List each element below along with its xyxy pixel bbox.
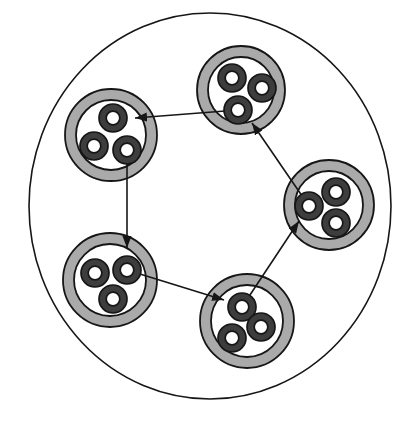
- cell-interior: [329, 216, 343, 230]
- cell-interior: [231, 103, 245, 117]
- cell-interior: [120, 263, 134, 277]
- diagram-stage: [0, 0, 410, 421]
- cluster-top-left: [65, 89, 157, 181]
- diagram-canvas: [0, 0, 410, 421]
- cell-interior: [106, 292, 120, 306]
- cluster-bottom: [200, 274, 294, 368]
- cell-interior: [225, 71, 239, 85]
- cell-interior: [254, 320, 268, 334]
- cell-interior: [302, 199, 316, 213]
- cell-interior: [120, 143, 134, 157]
- cell-interior: [87, 139, 101, 153]
- cell-interior: [235, 300, 249, 314]
- cell-interior: [106, 111, 120, 125]
- cell-interior: [329, 185, 343, 199]
- cell-interior: [88, 266, 102, 280]
- cell-interior: [225, 331, 239, 345]
- cell-interior: [255, 81, 269, 95]
